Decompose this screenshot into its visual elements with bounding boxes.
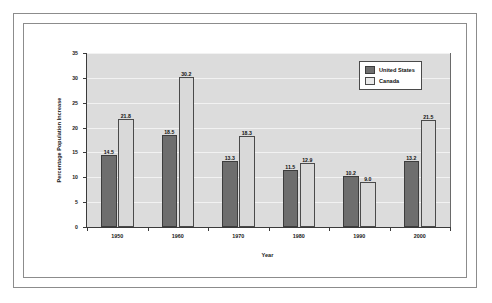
x-axis-tick xyxy=(390,227,391,231)
y-axis-tick xyxy=(83,128,87,129)
bar-canada-1960: 30.2 xyxy=(179,77,195,227)
y-axis-tick-label: 30 xyxy=(72,75,78,81)
y-axis-tick xyxy=(83,177,87,178)
x-axis-tick-label: 1980 xyxy=(293,233,305,239)
gridline xyxy=(87,152,450,153)
outer-border-frame: Percentage Population Increase 051015202… xyxy=(13,13,477,288)
bar-value-label: 13.3 xyxy=(225,155,235,161)
bar-united-states-1970: 13.3 xyxy=(222,161,238,227)
x-axis-tick-label: 2000 xyxy=(414,233,426,239)
bar-value-label: 30.2 xyxy=(181,71,191,77)
bar-value-label: 10.2 xyxy=(346,170,356,176)
y-axis-tick-label: 25 xyxy=(72,100,78,106)
bar-value-label: 11.5 xyxy=(285,164,295,170)
x-axis-tick xyxy=(269,227,270,231)
legend-swatch-canada xyxy=(365,77,375,85)
bar-united-states-1960: 18.5 xyxy=(162,135,178,227)
y-axis-tick-label: 15 xyxy=(72,149,78,155)
bar-value-label: 13.2 xyxy=(406,155,416,161)
legend-label-canada: Canada xyxy=(379,78,399,84)
y-axis-tick-label: 5 xyxy=(75,199,78,205)
y-axis-tick xyxy=(83,53,87,54)
y-axis-tick xyxy=(83,152,87,153)
bar-value-label: 18.3 xyxy=(242,130,252,136)
gridline xyxy=(87,128,450,129)
gridline xyxy=(87,177,450,178)
bar-chart: Percentage Population Increase 051015202… xyxy=(24,24,466,277)
x-axis-tick xyxy=(208,227,209,231)
y-axis-tick xyxy=(83,103,87,104)
bar-united-states-1950: 14.5 xyxy=(101,155,117,227)
x-axis-tick xyxy=(329,227,330,231)
legend-item-canada: Canada xyxy=(365,77,415,85)
gridline xyxy=(87,202,450,203)
bar-united-states-1990: 10.2 xyxy=(343,176,359,227)
x-axis-tick-label: 1960 xyxy=(172,233,184,239)
bar-canada-1980: 12.9 xyxy=(300,163,316,227)
y-axis-tick-label: 35 xyxy=(72,50,78,56)
plot-area: 05101520253035 195019601970198019902000 … xyxy=(86,53,450,228)
y-axis-title: Percentage Population Increase xyxy=(53,53,65,227)
chart-legend: United States Canada xyxy=(359,61,422,90)
bar-canada-1990: 9.0 xyxy=(360,182,376,227)
y-axis-tick xyxy=(83,202,87,203)
legend-item-united-states: United States xyxy=(365,66,415,74)
bar-value-label: 14.5 xyxy=(104,149,114,155)
x-axis-tick-label: 1950 xyxy=(111,233,123,239)
bar-canada-1950: 21.8 xyxy=(118,119,134,227)
bar-canada-1970: 18.3 xyxy=(239,136,255,227)
bar-value-label: 18.5 xyxy=(164,129,174,135)
x-axis-tick xyxy=(148,227,149,231)
x-axis-title: Year xyxy=(86,252,449,258)
inner-border-frame: Percentage Population Increase 051015202… xyxy=(23,23,467,278)
x-axis-tick xyxy=(450,227,451,231)
x-axis-tick-label: 1970 xyxy=(232,233,244,239)
plot-right-edge xyxy=(450,53,451,227)
y-axis-tick-label: 0 xyxy=(75,224,78,230)
y-axis-tick-label: 20 xyxy=(72,125,78,131)
bar-canada-2000: 21.5 xyxy=(421,120,437,227)
bar-value-label: 9.0 xyxy=(364,176,371,182)
bar-united-states-2000: 13.2 xyxy=(404,161,420,227)
bar-united-states-1980: 11.5 xyxy=(283,170,299,227)
gridline xyxy=(87,53,450,54)
y-axis-tick xyxy=(83,78,87,79)
bar-value-label: 12.9 xyxy=(302,157,312,163)
x-axis-tick-label: 1990 xyxy=(353,233,365,239)
x-axis-tick xyxy=(87,227,88,231)
gridline xyxy=(87,103,450,104)
y-axis-tick-label: 10 xyxy=(72,174,78,180)
legend-swatch-united-states xyxy=(365,66,375,74)
bar-value-label: 21.8 xyxy=(121,113,131,119)
legend-label-united-states: United States xyxy=(379,67,415,73)
bar-value-label: 21.5 xyxy=(423,114,433,120)
y-axis-title-label: Percentage Population Increase xyxy=(56,98,62,183)
